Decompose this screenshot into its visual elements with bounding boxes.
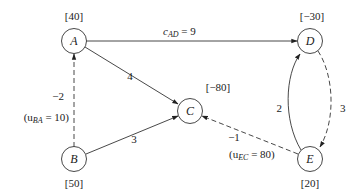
edge-b-a-cost: −2 bbox=[52, 90, 64, 102]
edge-e-c-cost: −1 bbox=[228, 131, 240, 143]
edge-b-c-cost: 3 bbox=[131, 133, 137, 145]
edge-e-c-capacity: (uEC = 80) bbox=[229, 148, 275, 162]
node-a-label: A bbox=[69, 34, 78, 48]
edge-a-d-label: cAD = 9 bbox=[163, 25, 196, 39]
edge-e-d-cost: 2 bbox=[277, 102, 283, 114]
edge-d-e-cost: 3 bbox=[340, 102, 346, 114]
node-a-supply: [40] bbox=[65, 10, 83, 22]
node-b-label: B bbox=[70, 152, 78, 166]
node-e: E [20] bbox=[298, 147, 323, 190]
edge-b-a-capacity: (uBA = 10) bbox=[24, 111, 70, 125]
node-d-label: D bbox=[305, 34, 315, 48]
edge-d-e bbox=[318, 51, 331, 147]
node-e-label: E bbox=[305, 152, 314, 166]
node-d: D [−30] bbox=[298, 10, 325, 54]
node-e-supply: [20] bbox=[301, 177, 319, 189]
network-flow-diagram: A [40] B [50] C [−80] D [−30] E [20] cAD… bbox=[0, 0, 359, 194]
node-c: C [−80] bbox=[178, 81, 231, 124]
edge-e-d bbox=[288, 54, 301, 150]
node-d-supply: [−30] bbox=[300, 10, 325, 22]
node-a: A [40] bbox=[62, 10, 87, 54]
node-b-supply: [50] bbox=[65, 177, 83, 189]
node-b: B [50] bbox=[62, 147, 87, 190]
edge-a-c-cost: 4 bbox=[127, 70, 133, 82]
node-c-supply: [−80] bbox=[206, 81, 231, 93]
node-c-label: C bbox=[186, 104, 195, 118]
